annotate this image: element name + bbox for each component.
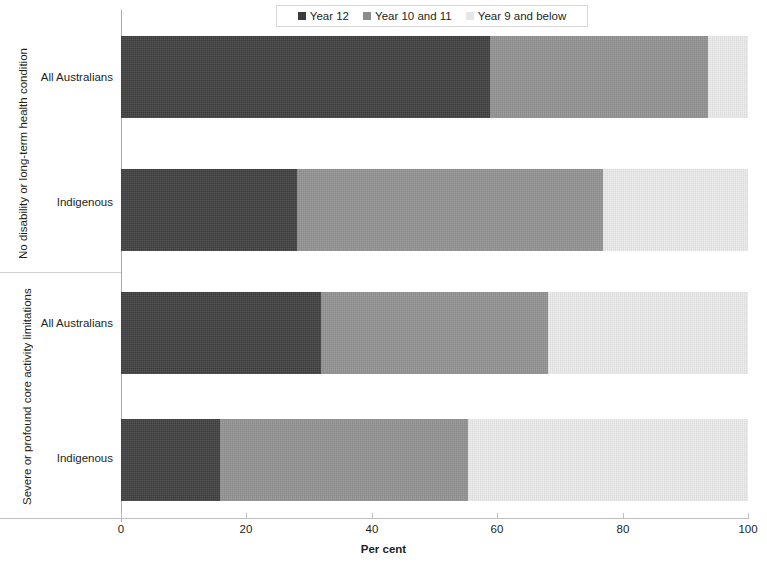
- bar-segment-3: [548, 292, 748, 374]
- x-tick-80: [623, 513, 624, 519]
- bar-texture-overlay: [121, 292, 321, 374]
- bar-segment-1: [121, 292, 321, 374]
- x-tick-label-100: 100: [728, 523, 767, 535]
- legend-item-year-12: Year 12: [298, 10, 349, 22]
- x-axis-end-cap: [748, 513, 749, 519]
- bar-segment-3: [603, 169, 748, 251]
- x-axis-title: Per cent: [0, 543, 767, 555]
- bar-row-2: [121, 169, 748, 251]
- bar-texture-overlay: [603, 169, 748, 251]
- bar-segment-2: [297, 169, 603, 251]
- legend-swatch-year-10-and-11-icon: [363, 12, 371, 20]
- x-tick-label-0: 0: [101, 523, 141, 535]
- category-label-row-3: All Australians: [8, 317, 113, 329]
- legend-item-year-10-and-11: Year 10 and 11: [363, 10, 452, 22]
- group-divider: [0, 272, 121, 273]
- category-label-row-4: Indigenous: [8, 452, 113, 464]
- bar-segment-2: [220, 419, 468, 501]
- bar-row-1: [121, 36, 748, 118]
- legend-label-year-12: Year 12: [310, 10, 349, 22]
- bar-row-3: [121, 292, 748, 374]
- bar-segment-1: [121, 169, 297, 251]
- bar-texture-overlay: [297, 169, 603, 251]
- x-tick-60: [497, 513, 498, 519]
- x-tick-20: [246, 513, 247, 519]
- bar-texture-overlay: [490, 36, 708, 118]
- legend-item-year-9-and-below: Year 9 and below: [466, 10, 566, 22]
- x-tick-label-40: 40: [352, 523, 392, 535]
- bar-segment-3: [468, 419, 748, 501]
- x-axis-line: [0, 518, 748, 519]
- bar-segment-1: [121, 36, 490, 118]
- x-tick-label-60: 60: [477, 523, 517, 535]
- x-tick-40: [372, 513, 373, 519]
- legend-label-year-9-and-below: Year 9 and below: [478, 10, 566, 22]
- x-tick-label-80: 80: [603, 523, 643, 535]
- bar-segment-2: [321, 292, 548, 374]
- x-tick-0: [121, 513, 122, 519]
- bar-texture-overlay: [220, 419, 468, 501]
- bar-segment-2: [490, 36, 708, 118]
- bar-segment-1: [121, 419, 220, 501]
- bar-texture-overlay: [321, 292, 548, 374]
- bar-texture-overlay: [468, 419, 748, 501]
- bar-texture-overlay: [121, 169, 297, 251]
- category-label-row-1: All Australians: [8, 71, 113, 83]
- bar-texture-overlay: [548, 292, 748, 374]
- bar-texture-overlay: [121, 419, 220, 501]
- category-label-row-2: Indigenous: [8, 196, 113, 208]
- chart-legend: Year 12 Year 10 and 11 Year 9 and below: [276, 5, 588, 27]
- bar-row-4: [121, 419, 748, 501]
- bar-texture-overlay: [708, 36, 748, 118]
- bar-texture-overlay: [121, 36, 490, 118]
- legend-swatch-year-9-and-below-icon: [466, 12, 474, 20]
- legend-swatch-year-12-icon: [298, 12, 306, 20]
- legend-label-year-10-and-11: Year 10 and 11: [375, 10, 452, 22]
- stacked-bar-chart: Year 12 Year 10 and 11 Year 9 and below …: [0, 0, 767, 565]
- bar-segment-3: [708, 36, 748, 118]
- x-tick-label-20: 20: [226, 523, 266, 535]
